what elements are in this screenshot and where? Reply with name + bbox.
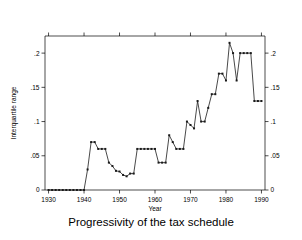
data-point-marker bbox=[48, 189, 50, 191]
x-tick-label: 1930 bbox=[41, 196, 56, 203]
y-tick-label-right: .15 bbox=[271, 84, 280, 91]
data-point-marker bbox=[111, 165, 113, 167]
data-point-marker bbox=[260, 100, 262, 102]
data-point-marker bbox=[193, 127, 195, 129]
data-point-marker bbox=[172, 141, 174, 143]
data-point-marker bbox=[79, 189, 81, 191]
data-point-marker bbox=[51, 189, 53, 191]
data-point-marker bbox=[72, 189, 74, 191]
data-point-marker bbox=[243, 52, 245, 54]
x-axis-title: Year bbox=[148, 205, 162, 212]
y-tick-label: .1 bbox=[34, 118, 40, 125]
data-point-marker bbox=[204, 121, 206, 123]
data-point-marker bbox=[250, 52, 252, 54]
data-point-marker bbox=[122, 174, 124, 176]
data-point-marker bbox=[207, 107, 209, 109]
data-point-marker bbox=[182, 148, 184, 150]
data-point-marker bbox=[104, 148, 106, 150]
data-point-marker bbox=[129, 173, 131, 175]
data-point-marker bbox=[186, 121, 188, 123]
data-point-marker bbox=[115, 170, 117, 172]
y-tick-label-right: 0 bbox=[271, 186, 275, 193]
data-point-marker bbox=[161, 162, 163, 164]
y-tick-label-right: .2 bbox=[271, 50, 277, 57]
data-point-marker bbox=[58, 189, 60, 191]
data-point-marker bbox=[62, 189, 64, 191]
data-point-marker bbox=[168, 134, 170, 136]
data-point-marker bbox=[257, 100, 259, 102]
y-tick-label-right: .05 bbox=[271, 152, 280, 159]
data-point-marker bbox=[108, 162, 110, 164]
data-point-marker bbox=[154, 148, 156, 150]
data-point-marker bbox=[65, 189, 67, 191]
data-point-marker bbox=[165, 162, 167, 164]
y-tick-label: .05 bbox=[30, 152, 39, 159]
data-point-marker bbox=[232, 52, 234, 54]
data-point-marker bbox=[147, 148, 149, 150]
data-point-marker bbox=[197, 100, 199, 102]
x-tick-label: 1950 bbox=[112, 196, 127, 203]
data-series-line bbox=[49, 43, 262, 190]
data-point-marker bbox=[239, 52, 241, 54]
data-point-marker bbox=[94, 141, 96, 143]
data-point-marker bbox=[136, 148, 138, 150]
x-tick-label: 1960 bbox=[148, 196, 163, 203]
y-tick-label: .2 bbox=[34, 50, 40, 57]
data-point-marker bbox=[87, 168, 89, 170]
data-point-marker bbox=[69, 189, 71, 191]
x-tick-label: 1970 bbox=[183, 196, 198, 203]
data-point-marker bbox=[236, 79, 238, 81]
y-tick-label: 0 bbox=[36, 186, 40, 193]
data-point-marker bbox=[211, 93, 213, 95]
data-point-marker bbox=[214, 93, 216, 95]
data-point-marker bbox=[246, 52, 248, 54]
data-point-marker bbox=[253, 100, 255, 102]
data-point-marker bbox=[101, 148, 103, 150]
data-point-marker bbox=[158, 162, 160, 164]
data-point-marker bbox=[140, 148, 142, 150]
x-tick-label: 1990 bbox=[254, 196, 269, 203]
data-point-marker bbox=[189, 124, 191, 126]
data-point-marker bbox=[221, 73, 223, 75]
data-point-marker bbox=[143, 148, 145, 150]
y-axis-title: Interquartile range bbox=[10, 86, 18, 139]
data-point-marker bbox=[150, 148, 152, 150]
x-tick-label: 1980 bbox=[219, 196, 234, 203]
x-tick-label: 1940 bbox=[77, 196, 92, 203]
data-point-marker bbox=[90, 141, 92, 143]
chart-figure: 193019401950196019701980199000.05.05.1.1… bbox=[0, 0, 302, 240]
data-point-marker bbox=[83, 189, 85, 191]
data-point-marker bbox=[76, 189, 78, 191]
data-point-marker bbox=[229, 42, 231, 44]
chart-caption: Progressivity of the tax schedule bbox=[68, 216, 234, 228]
progressivity-line-chart: 193019401950196019701980199000.05.05.1.1… bbox=[0, 0, 302, 240]
data-point-marker bbox=[175, 148, 177, 150]
data-point-marker bbox=[119, 171, 121, 173]
data-point-marker bbox=[200, 121, 202, 123]
data-point-marker bbox=[179, 148, 181, 150]
data-point-marker bbox=[133, 173, 135, 175]
y-tick-label: .15 bbox=[30, 84, 39, 91]
data-point-marker bbox=[218, 73, 220, 75]
y-tick-label-right: .1 bbox=[271, 118, 277, 125]
data-point-marker bbox=[55, 189, 57, 191]
data-point-marker bbox=[225, 79, 227, 81]
data-point-marker bbox=[126, 175, 128, 177]
data-point-marker bbox=[97, 148, 99, 150]
